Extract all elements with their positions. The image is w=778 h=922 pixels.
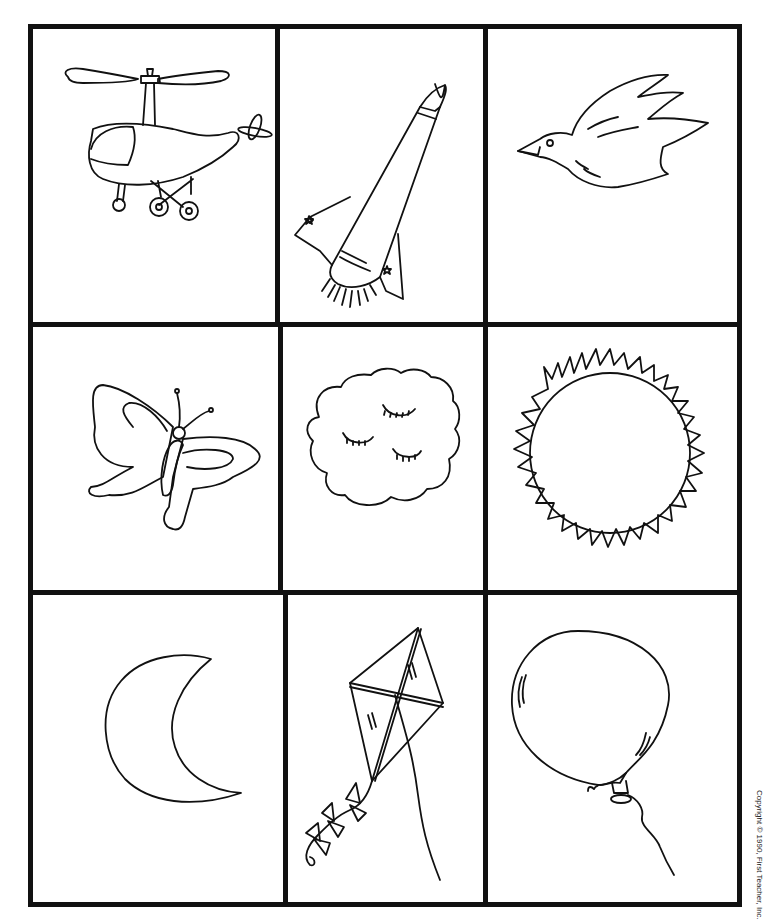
cell-kite bbox=[288, 595, 483, 902]
sun-icon bbox=[488, 327, 737, 590]
cell-balloon bbox=[488, 595, 737, 902]
rocket-icon bbox=[280, 29, 483, 322]
worksheet: Copyright © 1990, First Teacher, Inc. bbox=[0, 0, 778, 922]
moon-icon bbox=[33, 595, 283, 902]
kite-icon bbox=[288, 595, 483, 902]
cell-bird bbox=[488, 29, 737, 322]
copyright-notice: Copyright © 1990, First Teacher, Inc. bbox=[750, 790, 764, 920]
helicopter-icon bbox=[33, 29, 275, 322]
cell-cloud bbox=[283, 327, 483, 590]
cell-rocket bbox=[280, 29, 483, 322]
cell-moon bbox=[33, 595, 283, 902]
balloon-icon bbox=[488, 595, 737, 902]
cell-butterfly bbox=[33, 327, 278, 590]
cell-helicopter bbox=[33, 29, 275, 322]
butterfly-icon bbox=[33, 327, 278, 590]
cell-sun bbox=[488, 327, 737, 590]
cloud-icon bbox=[283, 327, 483, 590]
bird-icon bbox=[488, 29, 737, 322]
